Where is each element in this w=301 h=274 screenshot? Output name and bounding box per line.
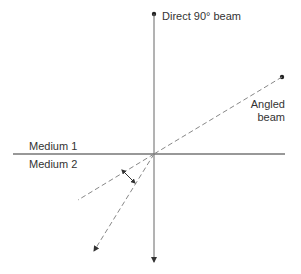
- angled-beam-label-line1: Angled: [251, 98, 285, 110]
- refracted-beam-line: [94, 154, 154, 251]
- angled-beam-label-line2: beam: [257, 111, 285, 123]
- direct-beam-label: Direct 90° beam: [162, 10, 241, 22]
- refraction-angle-arrow: [124, 172, 135, 183]
- medium-2-label: Medium 2: [29, 158, 77, 170]
- angled-beam-continuation-line: [78, 154, 154, 200]
- medium-1-label: Medium 1: [29, 140, 77, 152]
- refraction-diagram: [0, 0, 301, 274]
